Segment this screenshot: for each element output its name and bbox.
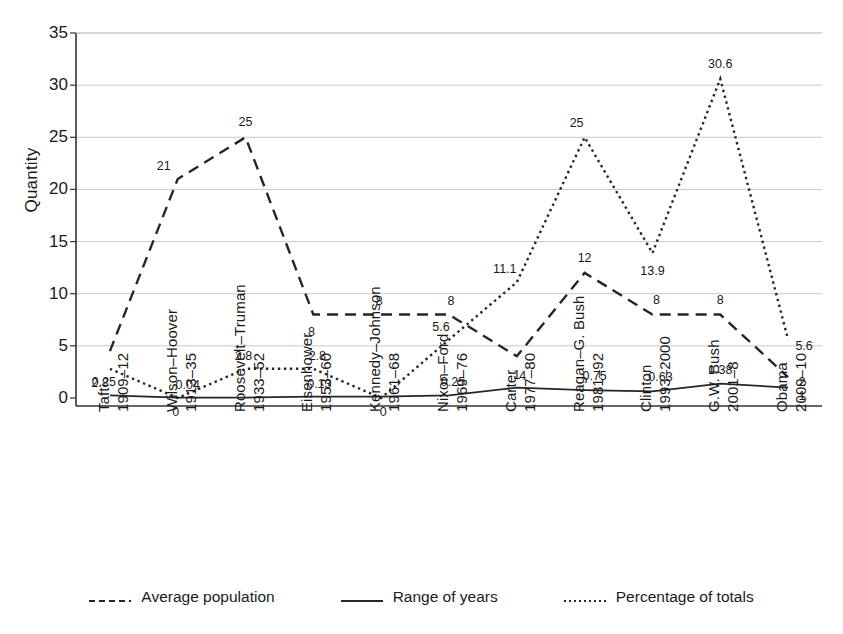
legend-key-dashed-icon	[89, 592, 131, 602]
x-axis-year-label: 1961–68	[385, 353, 402, 412]
data-label: 13.9	[640, 264, 664, 278]
chart-legend: Average populationRange of yearsPercenta…	[0, 588, 843, 606]
data-label: 2.8	[91, 376, 108, 390]
data-label: 0.75	[582, 369, 606, 383]
data-label: 5.6	[795, 339, 812, 353]
plot-area	[0, 0, 843, 634]
data-label: 0	[172, 405, 179, 419]
data-label: 8	[717, 293, 724, 307]
data-label: 2.8	[309, 349, 326, 363]
chart-container: Quantity 05101520253035 Taft1909–12Wilso…	[0, 0, 843, 634]
data-label: 8	[308, 325, 315, 339]
x-axis-category-label: Obama	[773, 362, 790, 412]
data-label: 1.38	[708, 363, 732, 377]
data-label: 25	[570, 116, 584, 130]
data-label: 4	[519, 369, 526, 383]
data-label: 0.04	[176, 378, 200, 392]
x-axis-category-label: Taft	[95, 387, 112, 412]
x-axis-category-label: Eisenhower	[298, 333, 315, 412]
legend-label: Range of years	[393, 588, 498, 606]
x-axis-category-label: Wilson–Hoover	[163, 309, 180, 412]
legend-key-solid-icon	[341, 592, 383, 602]
data-label: 12	[578, 251, 592, 265]
data-label: 2.8	[235, 349, 252, 363]
data-label: 2	[799, 375, 806, 389]
data-label: 8	[448, 294, 455, 308]
data-label: 8	[376, 294, 383, 308]
data-label: 21	[157, 159, 171, 173]
legend-key-dotted-icon	[564, 592, 606, 602]
x-axis-category-label: Reagan–G. Bush	[570, 296, 587, 412]
legend-item[interactable]: Average population	[89, 588, 274, 606]
x-axis-year-label: 1909–12	[114, 353, 131, 412]
legend-label: Percentage of totals	[616, 588, 754, 606]
data-label: 11.1	[493, 262, 516, 276]
legend-label: Average population	[141, 588, 274, 606]
data-label: 0.25	[441, 375, 465, 389]
x-axis-category-label: Nixon–Ford	[434, 333, 451, 412]
data-label: 1	[513, 368, 520, 382]
data-label: 25	[239, 115, 253, 129]
data-label: 0.63	[648, 370, 672, 384]
data-label: 30.6	[708, 57, 732, 71]
data-label: 8	[653, 293, 660, 307]
legend-item[interactable]: Percentage of totals	[564, 588, 754, 606]
data-label: 5.6	[432, 320, 449, 334]
data-label: 0.13	[307, 377, 331, 391]
legend-item[interactable]: Range of years	[341, 588, 498, 606]
data-label: 1	[799, 389, 806, 403]
data-label: 0	[380, 405, 387, 419]
